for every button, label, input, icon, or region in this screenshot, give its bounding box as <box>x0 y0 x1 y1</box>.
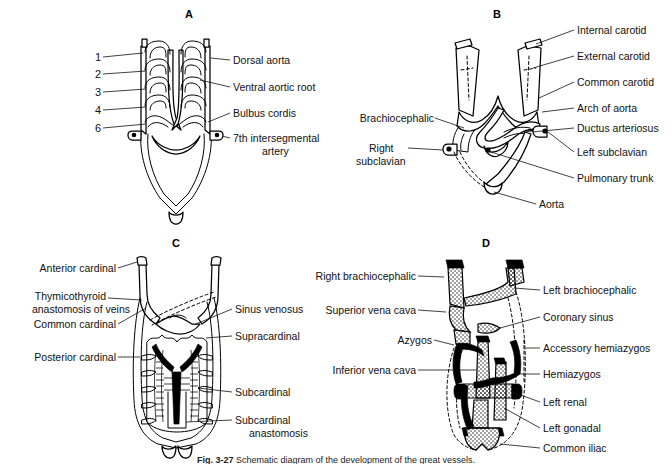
label-7th-intersegmental-artery: 7th intersegmental <box>233 132 319 145</box>
caption-label: Fig. 3-27 <box>197 455 234 464</box>
label-left-renal: Left renal <box>543 396 587 409</box>
label-dorsal-aorta: Dorsal aorta <box>233 54 290 67</box>
label-right-subclavian: Right <box>369 142 394 155</box>
panel-b: B <box>336 0 672 232</box>
label-common-iliac: Common iliac <box>543 442 607 455</box>
label-subcardinal-anastomosis: Subcardinal <box>235 414 290 427</box>
label-internal-carotid: Internal carotid <box>577 24 646 37</box>
caption-text: Schematic diagram of the development of … <box>236 455 475 464</box>
label-sinus-venosus: Sinus venosus <box>235 303 303 316</box>
label-ventral-aortic-root: Ventral aortic root <box>233 81 315 94</box>
arch-number-2: 2 <box>95 69 101 80</box>
label-thymicothyroid-line2: anastomosis of veins <box>12 303 130 316</box>
label-supracardinal: Supracardinal <box>235 330 300 343</box>
label-left-gonadal: Left gonadal <box>543 422 601 435</box>
figure-caption: Fig. 3-27 Schematic diagram of the devel… <box>0 455 672 464</box>
label-aorta: Aorta <box>539 198 564 211</box>
label-right-subclavian-line2: subclavian <box>356 155 406 168</box>
label-right-brachiocephalic: Right brachiocephalic <box>312 270 416 283</box>
panel-a: A <box>0 0 336 232</box>
label-left-subclavian: Left subclavian <box>577 146 647 159</box>
panel-c: C <box>0 232 336 464</box>
label-inferior-vena-cava: Inferior vena cava <box>312 364 416 377</box>
label-posterior-cardinal: Posterior cardinal <box>12 351 116 364</box>
label-azygos: Azygos <box>312 334 432 347</box>
label-bulbus-cordis: Bulbus cordis <box>233 107 296 120</box>
label-subcardinal: Subcardinal <box>235 386 290 399</box>
panel-d: D <box>336 232 672 464</box>
arch-number-1: 1 <box>95 52 101 63</box>
label-arch-of-aorta: Arch of aorta <box>577 102 637 115</box>
label-common-cardinal: Common cardinal <box>18 318 116 331</box>
arch-number-4: 4 <box>95 105 101 116</box>
label-brachiocephalic: Brachiocephalic <box>349 112 434 125</box>
arch-number-3: 3 <box>95 87 101 98</box>
label-ductus-arteriosus: Ductus arteriosus <box>577 122 659 135</box>
label-subcardinal-anastomosis-line2: anastomosis <box>249 427 308 440</box>
arch-number-6: 6 <box>95 123 101 134</box>
label-thymicothyroid: Thymicothyroid <box>12 290 106 303</box>
label-coronary-sinus: Coronary sinus <box>543 311 614 324</box>
label-common-carotid: Common carotid <box>577 76 654 89</box>
label-external-carotid: External carotid <box>577 50 650 63</box>
label-pulmonary-trunk: Pulmonary trunk <box>577 172 653 185</box>
label-left-brachiocephalic: Left brachiocephalic <box>543 284 636 297</box>
label-accessory-hemiazygos: Accessory hemiazygos <box>543 342 650 355</box>
label-hemiazygos: Hemiazygos <box>543 368 601 381</box>
label-superior-vena-cava: Superior vena cava <box>312 304 416 317</box>
label-anterior-cardinal: Anterior cardinal <box>18 262 116 275</box>
label-7th-intersegmental-artery-line2: artery <box>262 145 289 158</box>
figure-container: A <box>0 0 672 464</box>
